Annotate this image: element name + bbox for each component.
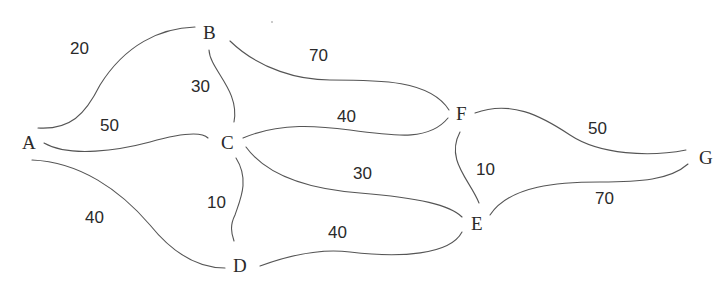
edge-c-d bbox=[232, 158, 244, 241]
weight-b-c: 30 bbox=[191, 77, 210, 96]
graph-svg: A B C D E F G 20 50 40 30 70 40 10 30 40… bbox=[0, 0, 726, 289]
weight-a-b: 20 bbox=[70, 39, 89, 58]
node-c: C bbox=[221, 132, 234, 153]
edge-b-c bbox=[209, 50, 235, 122]
edge-e-g bbox=[490, 164, 688, 215]
edge-d-e bbox=[260, 232, 462, 266]
weight-a-c: 50 bbox=[100, 116, 119, 135]
edge-a-c bbox=[44, 134, 208, 152]
node-f: F bbox=[456, 103, 467, 124]
node-e: E bbox=[471, 213, 483, 234]
weight-a-d: 40 bbox=[85, 208, 104, 227]
weight-d-e: 40 bbox=[328, 223, 347, 242]
edge-f-g bbox=[475, 108, 686, 154]
weight-c-d: 10 bbox=[207, 193, 226, 212]
weight-b-f: 70 bbox=[309, 46, 328, 65]
node-g: G bbox=[699, 147, 713, 168]
node-b: B bbox=[203, 22, 216, 43]
edge-b-f bbox=[230, 41, 449, 110]
edge-a-b bbox=[38, 27, 195, 128]
stray-dot bbox=[271, 21, 273, 23]
weight-f-e: 10 bbox=[476, 160, 495, 179]
weight-c-e: 30 bbox=[353, 164, 372, 183]
weighted-graph-diagram: A B C D E F G 20 50 40 30 70 40 10 30 40… bbox=[0, 0, 726, 289]
edge-a-d bbox=[32, 160, 225, 268]
node-d: D bbox=[233, 255, 247, 276]
weight-f-g: 50 bbox=[588, 119, 607, 138]
weight-c-f: 40 bbox=[337, 107, 356, 126]
weight-e-g: 70 bbox=[595, 189, 614, 208]
node-a: A bbox=[22, 132, 36, 153]
